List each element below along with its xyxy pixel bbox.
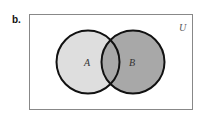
universe-label: U xyxy=(179,22,187,33)
set-b-label: B xyxy=(129,57,135,68)
venn-diagram: U A B xyxy=(0,0,200,114)
set-a-label: A xyxy=(83,57,91,68)
